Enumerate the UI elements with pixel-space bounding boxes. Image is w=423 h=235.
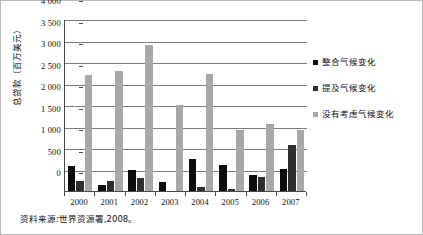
bar (159, 182, 167, 191)
legend-item-label: 没有考虑气候变化 (322, 110, 394, 119)
legend-swatch-icon (313, 86, 318, 91)
y-axis-tick-label: 1 000 (21, 126, 61, 135)
bar (176, 105, 184, 191)
bar-group (219, 19, 244, 191)
x-axis-tick-mark (125, 192, 126, 196)
bar (266, 124, 274, 191)
y-axis-tick-label: 3 500 (21, 19, 61, 28)
x-axis-tick-mark (246, 192, 247, 196)
y-axis-tick-label: 4 000 (21, 0, 61, 6)
y-axis-tick-label: 2 500 (21, 62, 61, 71)
y-axis-tick-mark (79, 1, 83, 2)
plot-area (64, 20, 306, 192)
bar (228, 189, 236, 191)
bar (76, 181, 84, 191)
bar (115, 71, 123, 191)
bar (145, 45, 153, 191)
x-axis-tick-mark (276, 192, 277, 196)
y-axis-tick-label: 500 (21, 148, 61, 157)
bar-group (280, 19, 305, 191)
legend-item-label: 提及气候变化 (322, 84, 376, 93)
bar (98, 185, 106, 191)
bar-group (189, 19, 214, 191)
x-axis-tick-mark (94, 192, 95, 196)
x-axis-tick-label: 2007 (271, 198, 311, 207)
bar (68, 166, 76, 191)
bar (128, 170, 136, 192)
source-note: 资料来源:世界资源署,2008。 (20, 214, 137, 224)
bar (249, 175, 257, 191)
y-axis-tick-label: 2 000 (21, 83, 61, 92)
bar (258, 177, 266, 191)
bar (280, 169, 288, 191)
bar (206, 74, 214, 191)
bar-group (249, 19, 274, 191)
y-axis-tick-label: 3 000 (21, 40, 61, 49)
legend-item: 没有考虑气候变化 (313, 110, 421, 119)
legend-item: 提及气候变化 (313, 84, 421, 93)
bar (219, 165, 227, 191)
y-axis-tick-label: 0 (21, 169, 61, 178)
bar (197, 187, 205, 191)
x-axis-tick-mark (185, 192, 186, 196)
bar-group (98, 19, 123, 191)
figure-container: 总贷款（百万美元） 4 0003 5003 0002 5002 0001 500… (0, 0, 423, 235)
x-axis-tick-mark (155, 192, 156, 196)
x-axis-tick-mark (306, 192, 307, 196)
legend-swatch-icon (313, 60, 318, 65)
y-axis-tick-label: 1 500 (21, 105, 61, 114)
x-axis-tick-mark (215, 192, 216, 196)
chart-legend: 整合气候变化 提及气候变化 没有考虑气候变化 (313, 58, 421, 136)
x-axis-tick-labels: 20002001200220032004200520062007 (64, 192, 306, 214)
bar-group (159, 19, 184, 191)
y-axis-tick-labels: 4 0003 5003 0002 5002 0001 5001 0005000 (19, 1, 61, 173)
bar (297, 130, 305, 191)
bar (288, 145, 296, 191)
bar (107, 181, 115, 191)
bar-group (128, 19, 153, 191)
legend-swatch-icon (313, 112, 318, 117)
bar (236, 130, 244, 191)
bar (189, 159, 197, 191)
legend-item: 整合气候变化 (313, 58, 421, 67)
legend-item-label: 整合气候变化 (322, 58, 376, 67)
x-axis-tick-mark (64, 192, 65, 196)
bar-group (68, 19, 93, 191)
bar (85, 75, 93, 191)
bar (137, 178, 145, 191)
